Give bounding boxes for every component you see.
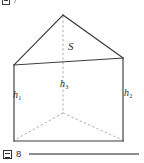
zu-kanji-box-icon [3,150,12,159]
figure-page: 7 [0,0,144,163]
prism-svg [0,0,144,148]
label-area-S: S [68,41,74,52]
label-h1-subscript: 1 [18,94,21,101]
label-height-h2: h2 [124,88,132,98]
hidden-edge-back-floor-right [63,113,122,140]
label-h2-subscript: 2 [129,92,132,99]
hidden-edges-group [15,16,123,140]
label-height-h1: h1 [13,90,21,100]
solid-edge-eave [14,58,123,65]
caption-horizontal-rule [29,153,139,155]
prism-figure: S h1 h2 h3 [0,0,144,148]
hidden-edge-back-floor-left [15,113,63,140]
solid-edge-roof-left [14,15,63,65]
solid-edges-group [14,15,123,141]
label-h3-subscript: 3 [65,83,68,90]
caption-bottom-number: 8 [16,149,21,159]
caption-bottom-figure-8: 8 [3,148,141,160]
label-height-h3: h3 [60,79,68,89]
